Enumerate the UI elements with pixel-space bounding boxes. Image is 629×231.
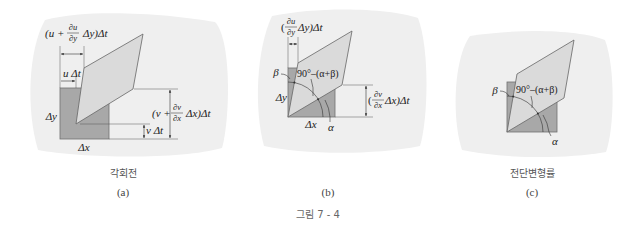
label-suffix: Δx)Δt (384, 94, 410, 107)
figure-caption: 그림 7 - 4 (296, 209, 340, 220)
alpha-label: α (552, 135, 558, 147)
fraction-numerator: ∂v (173, 102, 181, 112)
panel-a: (u + ∂u ∂y Δy)Δt u Δt (v + ∂v ∂x Δx)Δt v… (30, 13, 228, 199)
fraction-denominator: ∂x (374, 100, 382, 110)
figure-7-4: (u + ∂u ∂y Δy)Δt u Δt (v + ∂v ∂x Δx)Δt v… (0, 0, 629, 231)
panel-c-label: (c) (526, 186, 539, 199)
panel-a-subtitle: 각회전 (110, 168, 137, 179)
label-suffix: Δy)Δt (82, 27, 108, 40)
dx-label: Δx (304, 118, 316, 130)
angle-label: 90°–(α+β) (516, 84, 558, 96)
alpha-label: α (328, 121, 334, 133)
beta-label: β (491, 84, 498, 96)
fraction-numerator: ∂u (69, 22, 77, 32)
fraction-denominator: ∂y (287, 27, 295, 37)
fraction-numerator: ∂u (287, 16, 295, 26)
v-dt-label: v Δt (146, 124, 164, 136)
label-prefix: (v + (152, 107, 171, 120)
dy-label: Δy (45, 110, 57, 122)
panel-b-label: (b) (322, 186, 335, 199)
panel-a-label: (a) (117, 186, 130, 199)
label-prefix: ( (368, 94, 372, 107)
panel-c: β 90°–(α+β) α 전단변형률 (c) (456, 31, 613, 199)
beta-label: β (272, 66, 279, 78)
label-suffix: Δy)Δt (297, 21, 323, 34)
label-suffix: Δx)Δt (185, 107, 211, 120)
u-dt-label: u Δt (63, 67, 82, 79)
dx-label: Δx (77, 141, 89, 153)
label-prefix: ( (281, 21, 285, 34)
panel-b: ( ∂u ∂y Δy)Δt ( ∂v ∂x Δx)Δt β 90°–(α+β) … (258, 9, 427, 199)
panel-c-subtitle: 전단변형률 (510, 168, 555, 179)
arc-tick (537, 113, 539, 115)
fraction-denominator: ∂x (173, 113, 181, 123)
label-prefix: (u + (45, 27, 64, 40)
arc-tick (293, 82, 295, 84)
arc-tick (317, 98, 319, 100)
angle-label: 90°–(α+β) (297, 68, 339, 80)
dy-label: Δy (275, 91, 287, 103)
arc-tick (512, 96, 514, 98)
fraction-denominator: ∂y (69, 33, 77, 43)
fraction-numerator: ∂v (374, 89, 382, 99)
figure-canvas: (u + ∂u ∂y Δy)Δt u Δt (v + ∂v ∂x Δx)Δt v… (0, 0, 629, 231)
